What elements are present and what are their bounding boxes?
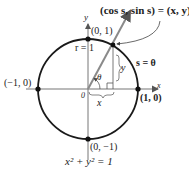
point-right: [135, 86, 140, 91]
y-axis-label: y: [83, 12, 88, 22]
origin-label: 0: [81, 91, 85, 100]
leg-y-label: y: [120, 62, 126, 73]
radius-label: r = 1: [75, 42, 94, 53]
point-bottom-label: (0, −1): [90, 141, 117, 153]
point-top: [85, 36, 90, 41]
right-angle-marker: [107, 83, 113, 89]
callout-label: (cos s, sin s) = (x, y): [100, 4, 189, 17]
equation-label: x² + y² = 1: [64, 155, 113, 167]
point-on-circle: [111, 43, 116, 48]
point-top-label: (0, 1): [91, 25, 113, 37]
arc-label: s = θ: [136, 57, 156, 68]
point-right-label: (1, 0): [140, 92, 162, 104]
unit-circle-diagram: (cos s, sin s) = (x, y) y (0, 1) r = 1 s…: [0, 0, 189, 175]
point-left: [35, 86, 40, 91]
angle-label: θ: [97, 72, 102, 82]
brace-x: [89, 92, 114, 98]
x-axis-label: x: [156, 81, 161, 90]
point-left-label: (−1, 0): [4, 77, 31, 89]
leg-x-label: x: [96, 97, 102, 108]
terminal-ray: [88, 11, 130, 89]
